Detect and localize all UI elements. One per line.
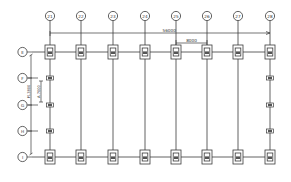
grid-bubble-F: F	[18, 73, 32, 82]
bay-dimension-text: 8000	[186, 38, 197, 43]
column-fill	[111, 156, 115, 159]
column-marker-21-I	[45, 150, 55, 164]
bubble-label: 26	[204, 14, 210, 19]
column-fill	[268, 51, 272, 54]
column-marker-26-E	[202, 45, 212, 59]
column-marker-27-E	[233, 45, 243, 59]
bubble-label: E	[21, 50, 24, 55]
grid-bubble-25: 25	[171, 11, 180, 20]
column-marker-25-I	[171, 150, 181, 164]
bubble-label: 22	[78, 14, 84, 19]
column-fill	[236, 156, 240, 159]
overall-dimension-text: 56000	[163, 28, 177, 33]
column-marker-21-E	[45, 45, 55, 59]
column-marker-24-I	[140, 150, 150, 164]
bubble-label: I	[22, 155, 23, 160]
bubble-label: 28	[267, 14, 273, 19]
column-marker-28-G	[267, 103, 274, 107]
column-marker-24-E	[140, 45, 150, 59]
bubble-label: 25	[173, 14, 179, 19]
column-marker-28-E	[265, 45, 275, 59]
grid-bubbles: 2122232425262728EFGHI	[18, 11, 275, 161]
column-marker-21-G	[47, 103, 54, 107]
grid-bubble-24: 24	[140, 11, 149, 20]
vertical-outer-dimension-text: P13800	[27, 84, 31, 98]
grid-bubble-H: H	[18, 126, 32, 135]
vertical-inner-dimension-text: A 7000	[37, 84, 41, 97]
column-fill	[205, 156, 209, 159]
grid-bubble-21: 21	[45, 11, 54, 20]
grid-plan-canvas: 560008000P13800A 7000 2122232425262728EF…	[0, 0, 291, 182]
column-marker-28-F	[267, 76, 274, 80]
grid-lines	[28, 21, 274, 157]
column-fill	[174, 156, 178, 159]
column-marker-21-H	[47, 129, 54, 133]
column-fill	[79, 51, 83, 54]
column-markers	[45, 45, 275, 164]
column-fill	[48, 130, 52, 132]
column-fill	[268, 104, 272, 106]
column-fill	[236, 51, 240, 54]
column-fill	[268, 77, 272, 79]
column-fill	[174, 51, 178, 54]
column-marker-23-E	[108, 45, 118, 59]
column-fill	[48, 77, 52, 79]
column-marker-28-H	[267, 129, 274, 133]
column-marker-25-E	[171, 45, 181, 59]
grid-bubble-28: 28	[265, 11, 274, 20]
bubble-label: 21	[47, 14, 53, 19]
column-fill	[79, 156, 83, 159]
column-marker-26-I	[202, 150, 212, 164]
column-marker-22-I	[76, 150, 86, 164]
bubble-label: 24	[142, 14, 148, 19]
column-fill	[143, 156, 147, 159]
column-marker-27-I	[233, 150, 243, 164]
grid-bubble-I: I	[18, 152, 32, 161]
column-marker-28-I	[265, 150, 275, 164]
grid-plan-drawing: 560008000P13800A 7000 2122232425262728EF…	[0, 0, 291, 182]
column-fill	[48, 156, 52, 159]
grid-bubble-22: 22	[76, 11, 85, 20]
column-fill	[48, 104, 52, 106]
bubble-label: 27	[235, 14, 241, 19]
grid-bubble-23: 23	[108, 11, 117, 20]
column-fill	[268, 156, 272, 159]
column-fill	[111, 51, 115, 54]
bubble-label: H	[21, 129, 24, 134]
grid-bubble-27: 27	[233, 11, 242, 20]
column-marker-23-I	[108, 150, 118, 164]
column-fill	[205, 51, 209, 54]
grid-bubble-26: 26	[202, 11, 211, 20]
column-fill	[143, 51, 147, 54]
grid-bubble-G: G	[18, 100, 32, 109]
grid-bubble-E: E	[18, 47, 32, 56]
bubble-label: G	[21, 103, 24, 108]
column-fill	[48, 51, 52, 54]
bubble-label: 23	[110, 14, 116, 19]
column-marker-21-F	[47, 76, 54, 80]
column-fill	[268, 130, 272, 132]
column-marker-22-E	[76, 45, 86, 59]
